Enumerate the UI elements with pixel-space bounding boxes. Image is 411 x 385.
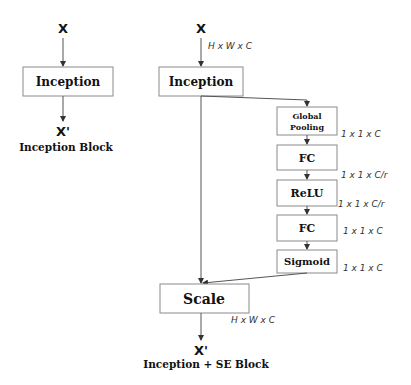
output-dim-label: H x W x C <box>231 315 276 325</box>
sigmoid-node: Sigmoid <box>277 250 337 273</box>
inception-se-block: X H x W x C Inception Global Pooling 1 x… <box>143 21 389 370</box>
fc2-dim: 1 x 1 x C <box>343 226 384 236</box>
right-input-label: X <box>196 21 206 36</box>
right-inception-label: Inception <box>169 75 234 89</box>
inception-block: X Inception X' Inception Block <box>19 21 113 153</box>
fc1-node: FC <box>277 145 337 170</box>
left-output-label: X' <box>56 124 70 139</box>
left-inception-label: Inception <box>36 75 101 89</box>
global-pooling-dim: 1 x 1 x C <box>341 129 382 139</box>
left-inception-node: Inception <box>23 67 113 96</box>
inception-se-diagram: X Inception X' Inception Block X H x W x… <box>0 0 411 385</box>
global-pooling-label-1: Global <box>292 111 321 121</box>
left-caption: Inception Block <box>19 141 113 153</box>
arrow-sigmoid-scale <box>203 273 307 283</box>
global-pooling-node: Global Pooling <box>277 107 337 135</box>
right-inception-node: Inception <box>159 67 243 96</box>
scale-node: Scale <box>160 284 249 313</box>
left-input-label: X <box>58 21 68 36</box>
relu-dim: 1 x 1 x C/r <box>338 199 386 209</box>
global-pooling-label-2: Pooling <box>290 122 324 132</box>
branch-arrow <box>201 96 307 106</box>
fc1-dim: 1 x 1 x C/r <box>341 170 389 180</box>
fc2-node: FC <box>277 215 337 241</box>
relu-node: ReLU <box>277 180 337 206</box>
sigmoid-dim: 1 x 1 x C <box>343 263 384 273</box>
input-dim-label: H x W x C <box>208 41 253 51</box>
relu-label: ReLU <box>291 187 324 200</box>
right-caption: Inception + SE Block <box>143 358 269 370</box>
right-output-label: X' <box>194 343 208 358</box>
sigmoid-label: Sigmoid <box>284 256 330 267</box>
scale-label: Scale <box>183 291 225 307</box>
fc1-label: FC <box>299 152 316 165</box>
fc2-label: FC <box>299 222 316 235</box>
